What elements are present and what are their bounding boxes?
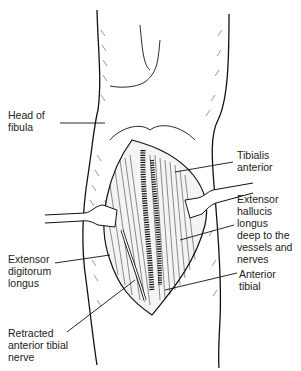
leader-extensor-digitorum [55, 255, 110, 263]
left-retractor [45, 205, 117, 227]
label-head-of-fibula: Head of fibula [8, 109, 45, 133]
label-extensor-digitorum-longus: Extensor digitorum longus [8, 253, 51, 289]
anatomy-figure: Head of fibula Tibialis anterior Extenso… [0, 0, 301, 371]
label-extensor-hallucis-longus: Extensor hallucis longus deep to the ves… [237, 193, 292, 265]
leader-retracted-nerve [67, 280, 135, 332]
leg-illustration [0, 0, 301, 371]
shading-left [90, 30, 107, 306]
label-anterior-tibial: Anterior tibial [239, 268, 276, 292]
label-retracted-anterior-tibial-nerve: Retracted anterior tibial nerve [8, 327, 68, 363]
label-tibialis-anterior: Tibialis anterior [237, 149, 273, 173]
leg-outline-left [83, 10, 100, 365]
